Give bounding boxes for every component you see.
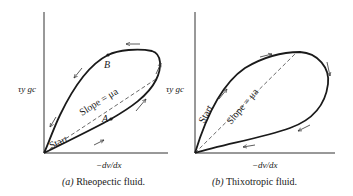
point-a-label: A [101, 113, 109, 124]
figure-b-thixotropic: Start Slope = μa τy gc −dv/dx (b) Thixot… [166, 12, 335, 188]
arrow-start-a [94, 140, 104, 145]
y-axis-label-b: τy gc [166, 84, 184, 94]
figure-a-rheopectic: Start Slope = μa A B τy gc −dv/dx (a) Rh… [18, 12, 168, 188]
start-label-b: Start [196, 103, 215, 125]
diagram-canvas: Start Slope = μa A B τy gc −dv/dx (a) Rh… [0, 0, 353, 196]
caption-b: (b) Thixotropic fluid. [212, 176, 297, 188]
point-b-label: B [104, 59, 110, 70]
arrow-down-a1 [74, 68, 82, 78]
point-a-marker [109, 117, 112, 120]
point-b-marker [106, 53, 109, 56]
y-axis-label-a: τy gc [18, 84, 36, 94]
arrow-down-b2 [298, 125, 310, 131]
caption-a: (a) Rheopectic fluid. [62, 176, 145, 188]
x-axis-label-a: −dv/dx [96, 160, 122, 170]
hysteresis-loop-b [195, 52, 328, 153]
x-axis-label-b: −dv/dx [252, 160, 278, 170]
arrow-left-b [243, 145, 255, 147]
slope-label-a: Slope = μa [77, 85, 120, 118]
slope-label-b: Slope = μa [224, 86, 261, 127]
